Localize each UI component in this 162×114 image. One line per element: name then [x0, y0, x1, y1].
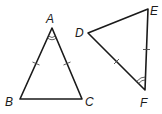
vertex-label-e: E [150, 4, 159, 18]
angle-arc-f-inner [139, 80, 146, 84]
vertex-label-c: C [85, 95, 94, 109]
angle-arc-a-inner [48, 36, 55, 38]
triangle-abc-outline [20, 28, 82, 99]
vertex-label-a: A [45, 12, 54, 26]
vertex-label-d: D [75, 26, 84, 40]
angle-arc-a-outer [48, 38, 57, 40]
vertex-label-f: F [140, 96, 148, 110]
vertex-label-b: B [5, 95, 13, 109]
diagram-canvas: A B C D E F [0, 0, 162, 114]
triangles-figure: A B C D E F [0, 0, 162, 114]
triangle-def-outline [88, 9, 148, 90]
